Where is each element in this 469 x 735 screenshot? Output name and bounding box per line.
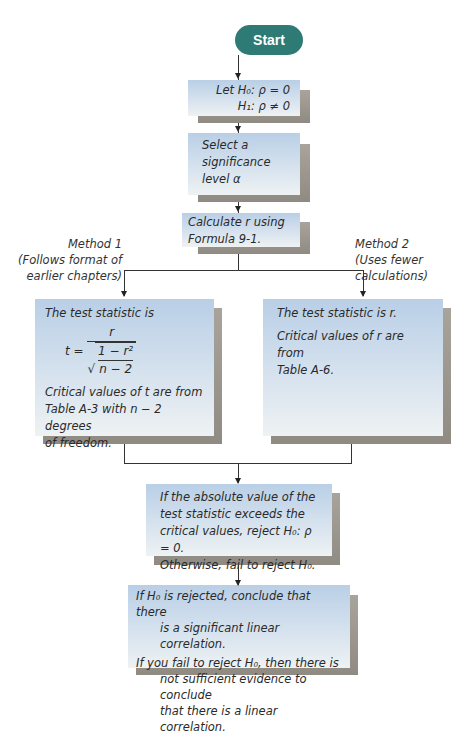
method1-intro: The test statistic is	[45, 305, 204, 322]
start-terminal: Start	[235, 25, 303, 55]
decision-text: test statistic exceeds the	[160, 506, 318, 523]
decision-text: If the absolute value of the	[160, 489, 318, 506]
null-hypothesis: Let H₀: ρ = 0	[198, 82, 290, 99]
method1-title: Method 1	[0, 236, 122, 252]
conclusion-text: is a significant linear correlation.	[136, 620, 342, 652]
significance-text: significance	[202, 154, 286, 171]
method1-note: (Follows format of	[0, 252, 122, 268]
formula-lhs: t =	[65, 344, 84, 358]
significance-text: Select a	[202, 137, 286, 154]
conclusion-text: that there is a linear correlation.	[136, 703, 342, 735]
method1-critical: of freedom.	[45, 435, 204, 452]
arrow-icon	[235, 206, 241, 212]
method2-note: (Uses fewer	[355, 252, 469, 268]
radicand-denominator: n − 2	[99, 362, 132, 376]
method2-intro: The test statistic is r.	[277, 305, 429, 322]
calculate-text: Formula 9-1.	[188, 231, 294, 248]
conclusion-text: If H₀ is rejected, conclude that there	[136, 588, 342, 620]
calculate-box: Calculate r using Formula 9-1.	[182, 213, 300, 247]
radicand-numerator: 1 − r²	[98, 343, 133, 361]
method2-note: calculations)	[355, 268, 469, 284]
arrow-icon	[360, 291, 366, 297]
formula-numerator: r	[87, 324, 136, 342]
arrow-icon	[121, 291, 127, 297]
formula-fraction: r √1 − r²n − 2	[87, 324, 136, 378]
method2-box: The test statistic is r. Critical values…	[263, 299, 443, 436]
method2-title: Method 2	[355, 236, 469, 252]
formula-denominator: √1 − r²n − 2	[87, 342, 136, 378]
method1-label: Method 1 (Follows format of earlier chap…	[0, 236, 122, 284]
significance-box: Select a significance level α	[188, 133, 300, 195]
method2-critical: Critical values of r are from	[277, 328, 429, 362]
decision-text: critical values, reject H₀: ρ = 0.	[160, 523, 318, 557]
decision-box: If the absolute value of the test statis…	[146, 484, 332, 556]
significance-text: level α	[202, 171, 286, 188]
decision-text: Otherwise, fail to reject H₀.	[160, 557, 318, 574]
method2-label: Method 2 (Uses fewer calculations)	[355, 236, 469, 284]
calculate-text: Calculate r using	[188, 214, 294, 231]
conclusion-text: not sufficient evidence to conclude	[136, 671, 342, 703]
method1-critical: Table A-3 with n − 2 degrees	[45, 401, 204, 435]
connector	[124, 270, 364, 271]
conclusion-box: If H₀ is rejected, conclude that there i…	[128, 585, 350, 668]
arrow-icon	[235, 478, 241, 484]
conclusion-text: If you fail to reject H₀, then there is	[136, 655, 342, 671]
method2-critical: Table A-6.	[277, 362, 429, 379]
method1-critical: Critical values of t are from	[45, 384, 204, 401]
arrow-icon	[235, 580, 241, 586]
method1-note: earlier chapters)	[0, 268, 122, 284]
arrow-icon	[235, 73, 241, 79]
arrow-icon	[235, 126, 241, 132]
method1-box: The test statistic is t = r √1 − r²n − 2…	[35, 299, 214, 436]
alt-hypothesis: H₁: ρ ≠ 0	[198, 98, 290, 115]
t-statistic-formula: t = r √1 − r²n − 2	[65, 324, 204, 378]
hypotheses-box: Let H₀: ρ = 0 H₁: ρ ≠ 0	[188, 80, 300, 116]
